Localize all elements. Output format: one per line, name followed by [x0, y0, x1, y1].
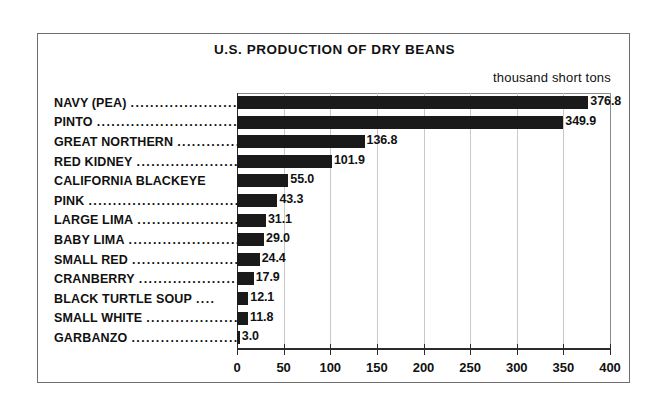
bar-value-label: 55.0 [290, 172, 314, 186]
category-name: NAVY (PEA) [54, 96, 127, 110]
bar [237, 292, 248, 305]
dot-leader: ........................... [131, 331, 237, 345]
x-tick-label: 200 [413, 360, 435, 375]
category-label: BLACK TURTLE SOUP.... [54, 289, 237, 309]
x-tick [237, 344, 238, 355]
bar-value-label: 101.9 [334, 153, 365, 167]
category-label: SMALL RED............................ [54, 250, 237, 270]
bar [237, 116, 563, 129]
x-tick-label: 400 [599, 360, 621, 375]
category-name: CRANBERRY [54, 272, 135, 286]
bar-row: 376.8 [237, 93, 610, 113]
dot-leader: .................... [146, 311, 237, 325]
bar-row: 31.1 [237, 211, 610, 231]
x-tick-label: 300 [506, 360, 528, 375]
x-tick-label: 350 [553, 360, 575, 375]
x-tick-label: 250 [459, 360, 481, 375]
bar-value-label: 376.8 [590, 94, 621, 108]
x-tick-label: 0 [233, 360, 240, 375]
category-name: BABY LIMA [54, 233, 125, 247]
bar-row: 17.9 [237, 269, 610, 289]
bar-value-label: 11.8 [250, 310, 273, 324]
bar-value-label: 136.8 [367, 133, 398, 147]
category-name: LARGE LIMA [54, 213, 133, 227]
x-tick [424, 344, 425, 355]
bar-row: 101.9 [237, 152, 610, 172]
x-tick [470, 344, 471, 355]
plot-area: 376.8349.9136.8101.955.043.331.129.024.4… [237, 93, 610, 348]
bar-value-label: 43.3 [279, 192, 303, 206]
dot-leader: ................................ [88, 194, 237, 208]
bar-row: 12.1 [237, 289, 610, 309]
x-tick [284, 344, 285, 355]
category-label: CALIFORNIA BLACKEYE [54, 171, 237, 191]
bar-row: 55.0 [237, 171, 610, 191]
bar-row: 11.8 [237, 309, 610, 329]
category-name: SMALL RED [54, 253, 128, 267]
bar-row: 29.0 [237, 230, 610, 250]
x-tick [563, 344, 564, 355]
category-label: SMALL WHITE.................... [54, 309, 237, 329]
dot-leader: ............................ [132, 253, 237, 267]
category-name: BLACK TURTLE SOUP [54, 292, 192, 306]
bar [237, 233, 264, 246]
bar-row: 349.9 [237, 113, 610, 133]
bar [237, 331, 240, 344]
chart-title: U.S. PRODUCTION OF DRY BEANS [38, 42, 631, 57]
bar [237, 155, 332, 168]
category-label: CRANBERRY.......................... [54, 269, 237, 289]
category-name: SMALL WHITE [54, 311, 142, 325]
x-tick-label: 150 [366, 360, 388, 375]
bar [237, 96, 588, 109]
chart-frame: U.S. PRODUCTION OF DRY BEANS thousand sh… [37, 33, 630, 383]
bar-row: 24.4 [237, 250, 610, 270]
category-label: RED KIDNEY............................ [54, 152, 237, 172]
category-label: LARGE LIMA.......................... [54, 211, 237, 231]
category-name: GREAT NORTHERN [54, 135, 173, 149]
dot-leader: .......................... [139, 272, 237, 286]
gridline-400 [610, 93, 611, 348]
bar-value-label: 3.0 [242, 329, 259, 343]
x-tick [330, 344, 331, 355]
bar-value-label: 349.9 [565, 114, 596, 128]
bar [237, 312, 248, 325]
bar [237, 174, 288, 187]
units-caption: thousand short tons [493, 70, 611, 85]
dot-leader: .................... [177, 135, 237, 149]
category-name: GARBANZO [54, 331, 127, 345]
bar-value-label: 17.9 [256, 270, 280, 284]
category-label: BABY LIMA............................ [54, 230, 237, 250]
x-tick [517, 344, 518, 355]
bar-row: 43.3 [237, 191, 610, 211]
category-label: NAVY (PEA).......................... [54, 93, 237, 113]
dot-leader: ............................ [137, 155, 237, 169]
category-name: PINK [54, 194, 84, 208]
bar-value-label: 31.1 [268, 212, 292, 226]
x-tick-label: 50 [276, 360, 290, 375]
category-label: PINK................................ [54, 191, 237, 211]
category-name: PINTO [54, 115, 93, 129]
x-tick-label: 100 [319, 360, 341, 375]
x-tick [377, 344, 378, 355]
category-label: GREAT NORTHERN.................... [54, 132, 237, 152]
category-name: RED KIDNEY [54, 155, 133, 169]
bar-value-label: 29.0 [266, 231, 290, 245]
x-tick [610, 344, 611, 355]
bar-row: 136.8 [237, 132, 610, 152]
dot-leader: .......................... [131, 96, 237, 110]
x-axis: 050100150200250300350400 [237, 348, 610, 350]
dot-leader: .... [196, 292, 237, 306]
bar [237, 214, 266, 227]
category-name: CALIFORNIA BLACKEYE [54, 174, 206, 188]
dot-leader: .............................. [97, 115, 237, 129]
category-label: GARBANZO........................... [54, 328, 237, 348]
bar-value-label: 24.4 [262, 251, 286, 265]
category-label: PINTO.............................. [54, 113, 237, 133]
bar [237, 135, 365, 148]
dot-leader: .......................... [137, 213, 237, 227]
bar-value-label: 12.1 [250, 290, 274, 304]
dot-leader: ............................ [129, 233, 237, 247]
bar [237, 253, 260, 266]
bar [237, 194, 277, 207]
bar [237, 272, 254, 285]
